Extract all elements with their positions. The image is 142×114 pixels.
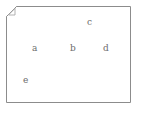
- label-e: e: [23, 76, 28, 85]
- label-d: d: [103, 44, 109, 53]
- page-outline: [7, 7, 131, 103]
- folded-page-shape: [6, 6, 131, 103]
- label-c: c: [87, 18, 92, 27]
- diagram-canvas: a b c d e: [0, 0, 142, 114]
- note-sheet: [6, 6, 131, 103]
- fold-flap-triangle: [9, 9, 16, 16]
- label-a: a: [32, 44, 37, 53]
- label-b: b: [70, 44, 76, 53]
